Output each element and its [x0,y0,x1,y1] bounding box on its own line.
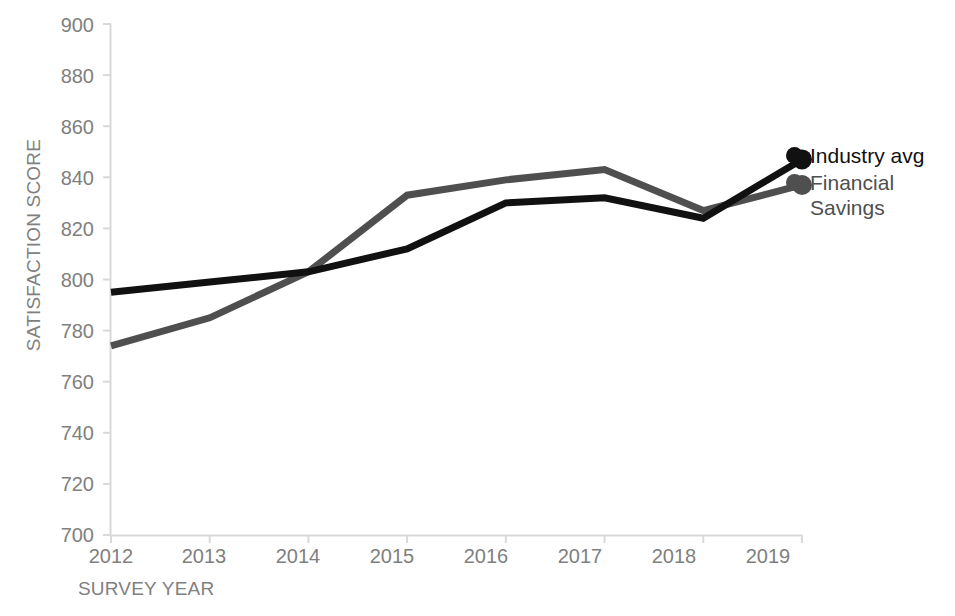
series-lines [111,159,802,346]
legend-marker-icon [786,174,803,191]
chart-legend: Industry avg Financial Savings [786,143,955,222]
legend-marker-icon [786,147,803,164]
plot-area [0,0,955,616]
series-line [111,159,802,292]
legend-item-label: Financial Savings [810,170,894,220]
legend-item-financial-savings[interactable]: Financial Savings [786,170,955,220]
legend-item-label: Industry avg [810,143,924,168]
line-chart: SATISFACTION SCORE SURVEY YEAR 900 880 8… [0,0,955,616]
legend-item-industry-avg[interactable]: Industry avg [786,143,955,168]
series-line [111,170,802,346]
